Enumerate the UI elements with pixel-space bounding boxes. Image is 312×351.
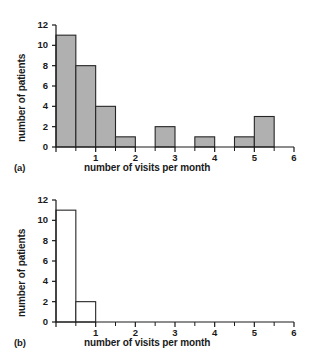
panel-tag-b: (b) — [14, 337, 26, 348]
plot-area-b: 024681012123456 — [0, 175, 312, 335]
histogram-bar — [56, 210, 76, 322]
y-tick-label: 8 — [34, 61, 48, 71]
histogram-figure: number of patients 024681012123456 numbe… — [0, 0, 312, 351]
histogram-bar — [96, 106, 116, 147]
y-tick-label: 10 — [34, 40, 48, 50]
histogram-bar — [195, 137, 215, 147]
x-tick-label: 5 — [247, 153, 261, 163]
panel-b: number of patients 024681012123456 numbe… — [0, 175, 312, 351]
y-tick-label: 0 — [34, 142, 48, 152]
y-tick-label: 12 — [34, 195, 48, 205]
plot-area-a: 024681012123456 — [0, 0, 312, 160]
x-tick-label: 5 — [247, 328, 261, 338]
y-tick-label: 2 — [34, 297, 48, 307]
y-tick-label: 4 — [34, 276, 48, 286]
y-tick-label: 6 — [34, 81, 48, 91]
y-tick-label: 8 — [34, 236, 48, 246]
x-tick-label: 6 — [287, 153, 301, 163]
bars-group — [56, 210, 96, 322]
histogram-bar — [155, 127, 175, 147]
y-tick-label: 10 — [34, 215, 48, 225]
x-axis-label-a: number of visits per month — [84, 162, 210, 173]
histogram-bar — [116, 137, 136, 147]
x-axis-label-b: number of visits per month — [84, 337, 210, 348]
y-tick-label: 4 — [34, 101, 48, 111]
panel-tag-a: (a) — [14, 162, 25, 173]
y-tick-label: 0 — [34, 317, 48, 327]
y-tick-label: 12 — [34, 20, 48, 30]
histogram-bar — [56, 35, 76, 147]
histogram-bar — [254, 117, 274, 148]
histogram-bar — [76, 302, 96, 322]
panel-a: number of patients 024681012123456 numbe… — [0, 0, 312, 176]
bars-group — [56, 35, 274, 147]
histogram-bar — [76, 66, 96, 147]
x-tick-label: 6 — [287, 328, 301, 338]
y-tick-label: 2 — [34, 122, 48, 132]
y-tick-label: 6 — [34, 256, 48, 266]
histogram-bar — [235, 137, 255, 147]
